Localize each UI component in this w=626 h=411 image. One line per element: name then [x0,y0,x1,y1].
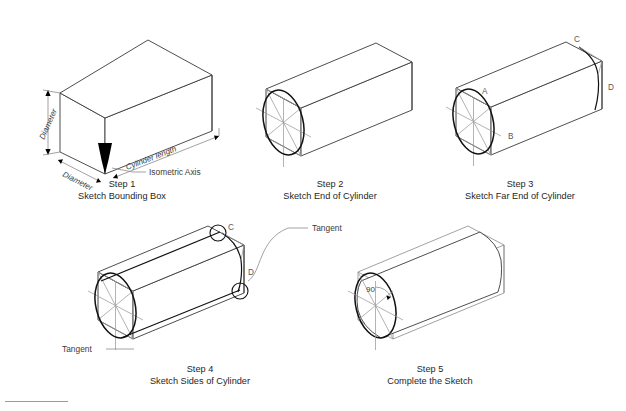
footer-rule [5,401,68,402]
step-4-description: Sketch Sides of Cylinder [150,376,250,386]
tangent-lower-annotation: Tangent [62,344,134,354]
step-2-drawing: Step 2 Sketch End of Cylinder [256,43,412,201]
point-b-label: B [508,132,514,141]
point-d-label: D [248,268,254,277]
point-c-label: C [574,35,580,44]
point-a-label: A [482,87,488,96]
bounding-box-step4 [98,226,244,339]
tangent-upper-annotation: Tangent [248,223,342,281]
step-3-number: Step 3 [507,179,534,189]
step-1-number: Step 1 [109,179,136,189]
point-c-label: C [228,223,234,232]
isometric-axis-leader: Isometric Axis [112,167,201,177]
step-3-description: Sketch Far End of Cylinder [465,191,575,201]
step-4-drawing: Tangent Tangent C D Step 4 Sketch Sides … [62,223,342,386]
bounding-box-step3 [456,42,602,155]
figure-canvas: Diameter Diameter Cylinder length Isomet… [0,0,626,411]
step-2-description: Sketch End of Cylinder [283,191,376,201]
step-1-drawing: Diameter Diameter Cylinder length Isomet… [38,40,219,201]
diameter-horizontal-label: Diameter [61,170,94,193]
step-1-description: Sketch Bounding Box [78,191,166,201]
diameter-vertical-dimension: Diameter [38,90,60,155]
tangent-upper-label: Tangent [312,223,342,233]
isometric-axis-label: Isometric Axis [149,167,201,177]
step-5-drawing: 90 Step 5 Complete the Sketch [348,226,504,386]
step-5-description: Complete the Sketch [387,376,472,386]
point-d-label: D [608,83,614,92]
bounding-box-step1 [60,40,212,174]
bounding-box-step2 [266,43,412,156]
cylinder-outline [357,232,502,338]
isometric-cylinder-figure: Diameter Diameter Cylinder length Isomet… [0,0,626,411]
step-3-drawing: A B C D Step 3 Sketch Far End of Cylinde… [446,35,614,201]
step-2-number: Step 2 [317,179,344,189]
angle-90-label: 90 [366,285,375,294]
step-5-number: Step 5 [417,364,444,374]
step-4-number: Step 4 [187,364,214,374]
tangent-lower-label: Tangent [62,344,92,354]
